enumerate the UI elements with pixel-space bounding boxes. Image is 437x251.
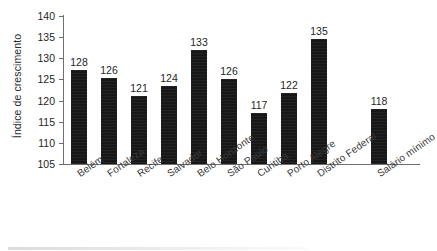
- y-tick-mark: [59, 143, 64, 144]
- bar: [191, 50, 207, 164]
- bar-value-label: 135: [305, 26, 333, 37]
- y-tick-mark: [59, 58, 64, 59]
- bar-value-label: 122: [275, 80, 303, 91]
- y-tick-mark: [59, 16, 64, 17]
- bar-value-label: 124: [155, 73, 183, 84]
- bar-value-label: 126: [215, 66, 243, 77]
- bar-value-label: 133: [185, 37, 213, 48]
- bar: [161, 86, 177, 164]
- y-tick-label: 110: [15, 138, 55, 149]
- y-tick-label: 135: [15, 32, 55, 43]
- bar: [71, 70, 87, 164]
- y-tick-mark: [59, 101, 64, 102]
- y-tick-mark: [59, 164, 64, 165]
- bar: [101, 78, 117, 164]
- bar-value-label: 128: [65, 57, 93, 68]
- bar-value-label: 117: [245, 100, 273, 111]
- bar-value-label: 121: [125, 83, 153, 94]
- page-caption-fragment: [8, 247, 308, 250]
- y-tick-mark: [59, 37, 64, 38]
- y-tick-mark: [59, 122, 64, 123]
- y-tick-mark: [59, 79, 64, 80]
- y-tick-label: 130: [15, 53, 55, 64]
- y-tick-label: 140: [15, 11, 55, 22]
- y-tick-label: 105: [15, 159, 55, 170]
- bar-value-label: 118: [365, 96, 393, 107]
- y-tick-label: 120: [15, 96, 55, 107]
- y-tick-label: 125: [15, 74, 55, 85]
- y-tick-label: 115: [15, 117, 55, 128]
- bar-value-label: 126: [95, 65, 123, 76]
